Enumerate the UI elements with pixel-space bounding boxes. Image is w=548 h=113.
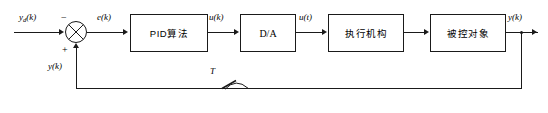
arrow-into-comparator xyxy=(59,29,64,35)
comparator-minus-sign: − xyxy=(61,12,67,23)
wire-error-signal xyxy=(87,32,124,33)
wire-control-discrete xyxy=(208,32,235,33)
label-control-discrete: u(k) xyxy=(209,12,224,22)
arrow-into-comparator-feedback xyxy=(73,43,79,48)
arrow-into-actuator xyxy=(322,29,327,35)
block-pid-algorithm[interactable]: PID算法 xyxy=(130,14,208,52)
block-da-converter[interactable]: D/A xyxy=(240,14,296,52)
control-system-block-diagram: yd(k) − + e(k) PID算法 D/A 执行机构 被控对象 u(k) … xyxy=(0,0,548,113)
label-sample-period: T xyxy=(210,66,215,76)
wire-feedback-bottom xyxy=(76,88,521,89)
block-controlled-plant[interactable]: 被控对象 xyxy=(430,14,506,52)
wire-control-continuous xyxy=(296,32,323,33)
label-output-signal: y(k) xyxy=(508,12,522,22)
arrow-into-pid xyxy=(123,29,128,35)
label-reference-signal: yd(k) xyxy=(19,12,36,22)
label-error-signal: e(k) xyxy=(97,12,111,22)
wire-feedback-up xyxy=(76,48,77,88)
arrow-into-plant xyxy=(424,29,429,35)
block-actuator[interactable]: 执行机构 xyxy=(328,14,404,52)
sampler-switch-icon xyxy=(216,72,256,92)
summing-junction xyxy=(65,21,87,43)
label-control-continuous: u(t) xyxy=(299,12,312,22)
arrow-output xyxy=(532,29,537,35)
comparator-plus-sign: + xyxy=(62,44,68,55)
wire-feedback-down xyxy=(521,32,522,89)
label-feedback-signal: y(k) xyxy=(48,61,62,71)
wire-actuator-to-plant xyxy=(404,32,425,33)
wire-reference-input xyxy=(14,32,60,33)
arrow-into-da xyxy=(234,29,239,35)
